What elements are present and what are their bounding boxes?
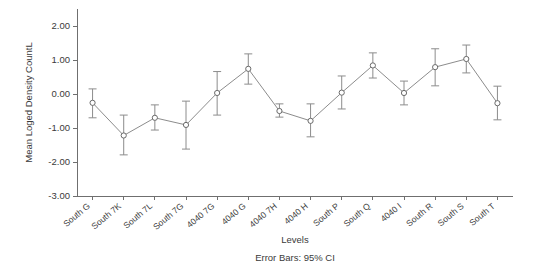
data-point-marker	[370, 63, 375, 68]
data-point-group	[400, 81, 408, 105]
x-tick-label: 4040 H	[282, 201, 310, 226]
data-point-group	[369, 53, 377, 78]
data-point-group	[431, 49, 439, 86]
chart-container: 2.001.000.00-1.00-2.00-3.00 South GSouth…	[0, 0, 547, 271]
y-tick-label: 1.00	[52, 54, 71, 65]
data-series	[89, 45, 502, 155]
x-tick-label: South P	[311, 201, 341, 228]
data-point-group	[151, 105, 159, 130]
x-tick-label: South T	[467, 200, 497, 227]
data-point-marker	[215, 90, 220, 95]
data-point-marker	[121, 133, 126, 138]
x-tick-label: South 7L	[121, 201, 154, 231]
data-point-group	[213, 72, 221, 116]
x-tick-label: South G	[61, 201, 92, 229]
x-tick-label: South 7G	[151, 201, 185, 232]
y-axis-title: Mean Loged Density CountL	[23, 42, 34, 162]
y-tick-label: -2.00	[48, 156, 70, 167]
data-point-group	[244, 54, 252, 84]
data-point-marker	[339, 90, 344, 95]
data-point-marker	[308, 118, 313, 123]
data-point-group	[120, 115, 128, 155]
y-tick-label: -1.00	[48, 122, 70, 133]
data-point-group	[307, 104, 315, 137]
data-point-group	[462, 45, 470, 73]
y-tick-label: -3.00	[48, 190, 70, 201]
x-tick-label: 4040 7G	[185, 201, 217, 230]
y-axis: 2.001.000.00-1.00-2.00-3.00	[48, 9, 77, 201]
line-chart-with-error-bars: 2.001.000.00-1.00-2.00-3.00 South GSouth…	[0, 0, 547, 271]
x-axis-title: Levels	[281, 234, 309, 245]
data-point-marker	[401, 90, 406, 95]
y-tick-label: 0.00	[52, 88, 71, 99]
data-point-marker	[464, 56, 469, 61]
data-point-marker	[90, 100, 95, 105]
data-point-group	[275, 104, 283, 117]
y-tick-label: 2.00	[52, 20, 71, 31]
axis-labels: Mean Loged Density CountLLevelsError Bar…	[23, 42, 335, 263]
data-point-group	[493, 86, 501, 120]
data-point-marker	[246, 66, 251, 71]
x-tick-label: South R	[404, 201, 434, 229]
x-tick-label: 4040 7H	[247, 201, 278, 230]
data-point-group	[89, 89, 97, 118]
error-bar-caption: Error Bars: 95% CI	[255, 252, 335, 263]
x-tick-label: South S	[436, 201, 466, 228]
data-point-group	[338, 76, 346, 109]
data-point-marker	[433, 65, 438, 70]
x-tick-label: 4040 I	[379, 201, 404, 224]
data-point-group	[182, 101, 190, 149]
x-tick-label: 4040 G	[220, 201, 248, 227]
data-point-marker	[152, 115, 157, 120]
data-point-marker	[495, 101, 500, 106]
series-line	[93, 59, 498, 136]
data-point-marker	[277, 108, 282, 113]
data-point-marker	[183, 122, 188, 127]
x-axis: South GSouth 7KSouth 7LSouth 7G4040 7G40…	[61, 196, 513, 232]
x-tick-label: South Q	[342, 201, 373, 229]
x-tick-label: South 7K	[89, 201, 123, 232]
